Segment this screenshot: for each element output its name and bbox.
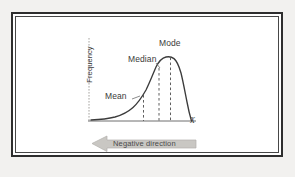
y-axis-label: Frequency <box>85 37 94 93</box>
figure-frame <box>11 12 283 157</box>
median-label: Median <box>128 54 156 64</box>
mean-label: Mean <box>105 91 127 101</box>
figure-root: Mode Median Mean X Frequency Negative di… <box>0 0 295 177</box>
figure-frame-inner-rule <box>15 16 279 153</box>
mode-label: Mode <box>159 38 181 48</box>
x-axis-label: X <box>190 116 195 125</box>
negative-direction-label: Negative direction <box>113 139 176 148</box>
